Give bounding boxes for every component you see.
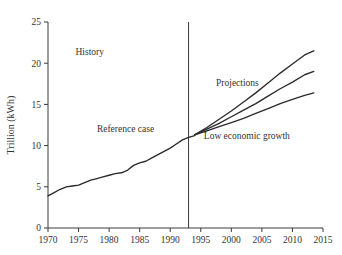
y-axis-title: Trillion (kWh)	[5, 96, 17, 155]
y-tick-label: 10	[32, 141, 42, 151]
y-tick-label: 0	[36, 223, 41, 233]
line-chart: Trillion (kWh) 0510152025 19701975198019…	[0, 0, 342, 255]
chart-annotations: HistoryReference caseProjectionsLow econ…	[76, 47, 291, 141]
annotation-label: Low economic growth	[204, 131, 290, 141]
x-tick-label: 1990	[161, 235, 180, 245]
series-line-projection	[195, 51, 314, 135]
x-tick-label: 1970	[39, 235, 58, 245]
chart-container: Trillion (kWh) 0510152025 19701975198019…	[0, 0, 342, 255]
y-axis-label: Trillion (kWh)	[5, 96, 17, 155]
y-tick-label: 20	[32, 59, 42, 69]
annotation-label: History	[76, 47, 105, 57]
x-tick-label: 1980	[100, 235, 119, 245]
y-tick-label: 5	[36, 182, 41, 192]
x-axis: 1970197519801985199019952000200520102015	[39, 228, 333, 245]
x-tick-label: 2005	[252, 235, 271, 245]
x-tick-label: 2000	[222, 235, 241, 245]
y-tick-label: 15	[32, 100, 42, 110]
y-tick-label: 25	[32, 17, 42, 27]
x-tick-label: 1995	[191, 235, 210, 245]
x-tick-label: 1975	[69, 235, 88, 245]
x-tick-label: 1985	[130, 235, 149, 245]
annotation-label: Projections	[216, 78, 259, 88]
series-line-history	[48, 136, 195, 196]
data-series-group	[48, 51, 314, 196]
y-axis: 0510152025	[32, 17, 49, 233]
x-tick-label: 2010	[283, 235, 302, 245]
annotation-label: Reference case	[97, 124, 154, 134]
x-tick-label: 2015	[314, 235, 333, 245]
series-line-projection	[195, 93, 314, 135]
